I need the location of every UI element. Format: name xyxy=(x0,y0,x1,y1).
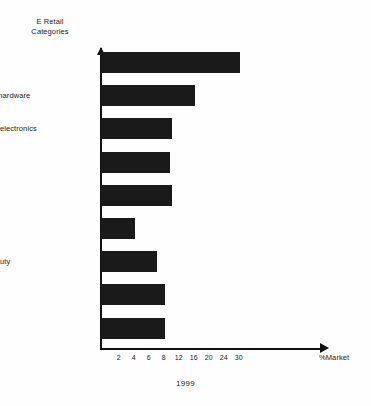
bar xyxy=(101,284,165,305)
category-label: food/bev xyxy=(0,224,56,233)
category-label: music xyxy=(0,290,56,299)
bar-fill xyxy=(101,118,172,139)
bar xyxy=(101,85,195,106)
bar-fill xyxy=(101,284,165,305)
category-label: books xyxy=(0,190,56,199)
chart-figure: E Retail Categories air ticketscomputer … xyxy=(0,0,371,406)
bar-fill xyxy=(101,185,172,206)
bar-fill xyxy=(101,85,195,106)
bar-fill xyxy=(101,251,157,272)
y-axis-title-line-1: E Retail xyxy=(8,17,92,27)
x-tick-label: 30 xyxy=(228,354,250,361)
x-axis-line xyxy=(100,348,322,350)
bar-fill xyxy=(101,318,165,339)
bar xyxy=(101,118,172,139)
bar xyxy=(101,152,170,173)
bar xyxy=(101,251,157,272)
plot-area: air ticketscomputer hardwareconsumer ele… xyxy=(100,42,331,350)
category-label: health/beauty xyxy=(0,257,56,266)
x-axis-arrow-icon xyxy=(320,343,329,353)
category-label: air tickets xyxy=(0,58,56,67)
category-label: software xyxy=(0,323,56,332)
x-axis-label: %Market xyxy=(319,353,349,362)
bar xyxy=(101,52,240,73)
bar xyxy=(101,185,172,206)
bar-fill xyxy=(101,52,240,73)
y-axis-title-line-2: Categories xyxy=(8,27,92,37)
bar-fill xyxy=(101,218,135,239)
y-axis-title: E Retail Categories xyxy=(8,17,92,36)
bar xyxy=(101,318,165,339)
category-label: computer hardware xyxy=(0,91,56,100)
category-label: consumer electronics xyxy=(0,124,56,133)
bar-fill xyxy=(101,152,170,173)
category-label: apparel xyxy=(0,157,56,166)
bar xyxy=(101,218,135,239)
chart-caption: 1999 xyxy=(0,379,371,388)
